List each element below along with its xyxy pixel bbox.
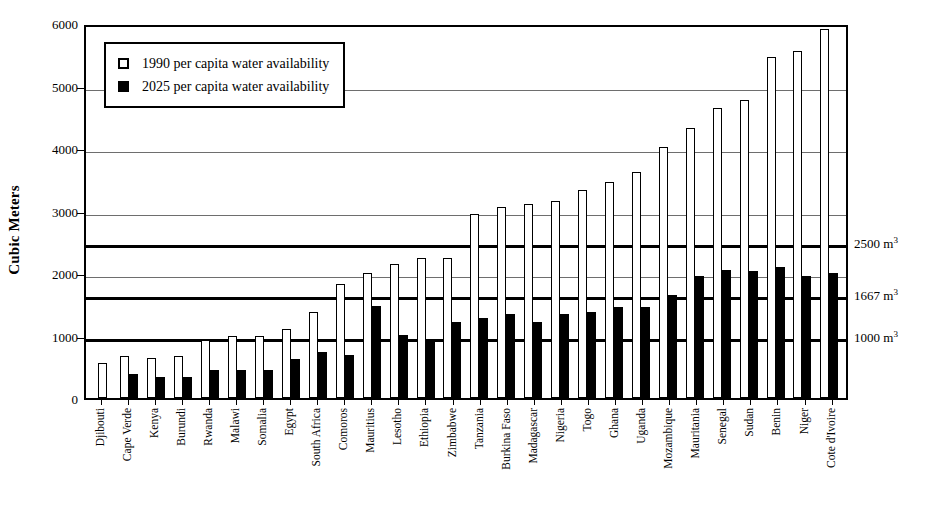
x-axis-category-label: Togo [582,408,594,431]
bar-1990 [793,51,802,398]
bar-group [789,27,816,398]
bar-1990 [201,340,210,398]
bar-2025 [183,377,192,398]
x-axis-label-cell: Zimbabwe [439,406,466,506]
y-axis-tick-mark [77,213,84,214]
bar-1990 [255,336,264,399]
x-axis-category-label: Senegal [718,408,730,444]
bar-1990 [390,264,399,398]
y-axis-tick-mark [77,88,84,89]
x-axis-category-label: Ethiopia [420,408,432,447]
x-axis-category-label: Mauritania [691,408,703,458]
bar-group [439,27,466,398]
legend-swatch-2025-icon [118,81,129,92]
bar-2025 [345,355,354,398]
bar-1990 [363,273,372,398]
bar-1990 [309,312,318,398]
x-axis-category-label: Somalia [257,408,269,446]
bar-1990 [174,356,183,399]
x-axis-category-label: Kenya [149,408,161,438]
x-axis-label-cell: Comoros [331,406,358,506]
y-axis-tick-label: 1000 [32,330,78,346]
x-axis-label-cell: Benin [764,406,791,506]
bar-group [547,27,574,398]
bar-1990 [686,128,695,398]
y-axis-tick-label: 4000 [32,142,78,158]
legend-label-1990: 1990 per capita water availability [142,56,329,72]
bar-group [466,27,493,398]
x-axis-label-cell: Djibouti [87,406,114,506]
bar-1990 [659,147,668,398]
bar-2025 [802,276,811,399]
bar-2025 [695,276,704,399]
x-axis-category-label: Burkina Faso [501,408,513,470]
bar-group [520,27,547,398]
x-axis-label-cell: Cape Verde [114,406,141,506]
bar-group [762,27,789,398]
bar-1990 [551,201,560,398]
bar-1990 [98,363,107,398]
x-axis-label-cell: Kenya [141,406,168,506]
x-axis-category-label: Mozambique [663,408,675,469]
y-axis-tick-label: 5000 [32,80,78,96]
bar-1990 [282,329,291,398]
x-axis-category-label: Uganda [636,408,648,444]
bar-1990 [605,182,614,398]
bar-group [681,27,708,398]
y-axis-title-text: Cubic Meters [6,150,23,310]
bar-group [385,27,412,398]
x-axis-category-label: Cote d'Ivoire [826,408,838,468]
bar-1990 [740,100,749,398]
x-axis-label-cell: Senegal [710,406,737,506]
x-axis-label-cell: Ethiopia [412,406,439,506]
bar-2025 [722,270,731,398]
bar-1990 [443,258,452,398]
bar-1990 [713,108,722,398]
bar-2025 [506,314,515,398]
x-axis-label-cell: Niger [791,406,818,506]
x-axis-label-cell: Egypt [277,406,304,506]
bar-group [627,27,654,398]
x-axis-category-label: Cape Verde [122,408,134,461]
legend-label-2025: 2025 per capita water availability [142,79,329,95]
x-axis-category-labels: DjiboutiCape VerdeKenyaBurundiRwandaMala… [84,406,848,506]
bar-1990 [417,258,426,398]
x-axis-category-label: Tanzania [474,408,486,449]
reference-line-label: 1667 m3 [854,287,898,304]
y-axis-tick-label: 3000 [32,205,78,221]
x-axis-category-label: Benin [772,408,784,435]
bar-2025 [237,370,246,398]
y-axis-tick-mark [77,275,84,276]
x-axis-label-cell: Cote d'Ivoire [818,406,845,506]
x-axis-label-cell: Burkina Faso [493,406,520,506]
bar-1990 [120,356,129,398]
x-axis-category-label: Rwanda [203,408,215,446]
x-axis-category-label: Niger [799,408,811,434]
y-axis-tick-label: 2000 [32,267,78,283]
bar-1990 [497,207,506,398]
bar-2025 [291,359,300,398]
bar-1990 [578,190,587,398]
x-axis-category-label: Egypt [284,408,296,435]
y-axis-title: Cubic Meters [6,0,23,150]
bar-2025 [452,322,461,398]
x-axis-label-cell: Nigeria [547,406,574,506]
x-axis-label-cell: Uganda [629,406,656,506]
bar-2025 [156,377,165,398]
bar-group [493,27,520,398]
x-axis-category-label: Burundi [176,408,188,446]
x-axis-label-cell: Malawi [222,406,249,506]
reference-line-label: 1000 m3 [854,329,898,346]
legend-item: 1990 per capita water availability [118,52,329,75]
bar-1990 [524,204,533,398]
bar-1990 [336,284,345,398]
x-axis-label-cell: Somalia [249,406,276,506]
x-axis-label-cell: Rwanda [195,406,222,506]
bar-2025 [479,318,488,398]
bar-group [708,27,735,398]
x-axis-category-label: Mauritius [366,408,378,453]
bar-group [358,27,385,398]
x-axis-category-label: Lesotho [393,408,405,445]
x-axis-category-label: Comoros [338,408,350,450]
bar-2025 [749,271,758,398]
